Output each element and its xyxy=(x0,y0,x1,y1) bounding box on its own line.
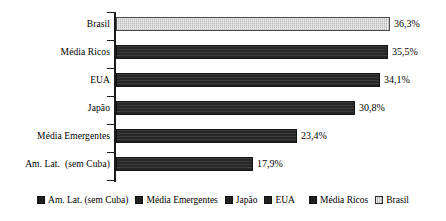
bar-row: Brasil 36,3% xyxy=(0,17,446,45)
bar-chart: Brasil 36,3% Média Ricos 35,5% EUA xyxy=(0,0,446,221)
legend-swatch-icon xyxy=(225,196,233,204)
bar-media-emergentes[interactable] xyxy=(116,129,297,143)
legend-swatch-icon xyxy=(264,196,272,204)
bar-value-label: 35,5% xyxy=(392,45,418,59)
bar-container xyxy=(116,73,380,87)
legend-item-japao[interactable]: Japão xyxy=(225,195,258,205)
legend-swatch-icon xyxy=(135,196,143,204)
bar-value-label: 34,1% xyxy=(384,73,410,87)
category-label: Am. Lat. (sem Cuba) xyxy=(25,157,110,171)
legend-label: EUA xyxy=(275,195,295,205)
bar-am-lat[interactable] xyxy=(116,157,253,171)
bar-row: Média Emergentes 23,4% xyxy=(0,129,446,157)
legend-swatch-icon xyxy=(309,196,317,204)
bar-container xyxy=(116,129,297,143)
legend-swatch-icon xyxy=(375,196,383,204)
bar-container xyxy=(116,101,355,115)
bar-container xyxy=(116,17,390,31)
bar-container xyxy=(116,157,253,171)
bar-value-label: 17,9% xyxy=(257,157,283,171)
category-label: Média Emergentes xyxy=(37,129,110,143)
bar-eua[interactable] xyxy=(116,73,380,87)
legend-item-media-ricos[interactable]: Média Ricos xyxy=(309,195,368,205)
category-label: Brasil xyxy=(87,17,110,31)
category-label: EUA xyxy=(90,73,110,87)
bar-row: Média Ricos 35,5% xyxy=(0,45,446,73)
legend-item-eua[interactable]: EUA xyxy=(264,195,295,205)
legend-item-media-emergentes[interactable]: Média Emergentes xyxy=(135,195,217,205)
bar-value-label: 30,8% xyxy=(359,101,385,115)
bar-value-label: 36,3% xyxy=(394,17,420,31)
category-label: Japão xyxy=(88,101,110,115)
legend-swatch-icon xyxy=(37,196,45,204)
legend-item-am-lat[interactable]: Am. Lat. (sem Cuba) xyxy=(37,195,128,205)
bar-container xyxy=(116,45,388,59)
legend-label: Am. Lat. (sem Cuba) xyxy=(48,195,128,205)
bar-rows: Brasil 36,3% Média Ricos 35,5% EUA xyxy=(0,12,446,182)
chart-legend: Am. Lat. (sem Cuba) Média Emergentes Jap… xyxy=(0,190,446,210)
category-label: Média Ricos xyxy=(61,45,110,59)
bar-brasil[interactable] xyxy=(116,17,390,31)
legend-label: Japão xyxy=(236,195,258,205)
bar-media-ricos[interactable] xyxy=(116,45,388,59)
plot-area: Brasil 36,3% Média Ricos 35,5% EUA xyxy=(0,0,446,186)
bar-row: Japão 30,8% xyxy=(0,101,446,129)
legend-item-brasil[interactable]: Brasil xyxy=(375,195,409,205)
bar-value-label: 23,4% xyxy=(301,129,327,143)
bar-row: Am. Lat. (sem Cuba) 17,9% xyxy=(0,157,446,185)
legend-label: Brasil xyxy=(386,195,409,205)
bar-row: EUA 34,1% xyxy=(0,73,446,101)
legend-label: Média Emergentes xyxy=(146,195,217,205)
bar-japao[interactable] xyxy=(116,101,355,115)
legend-label: Média Ricos xyxy=(320,195,368,205)
